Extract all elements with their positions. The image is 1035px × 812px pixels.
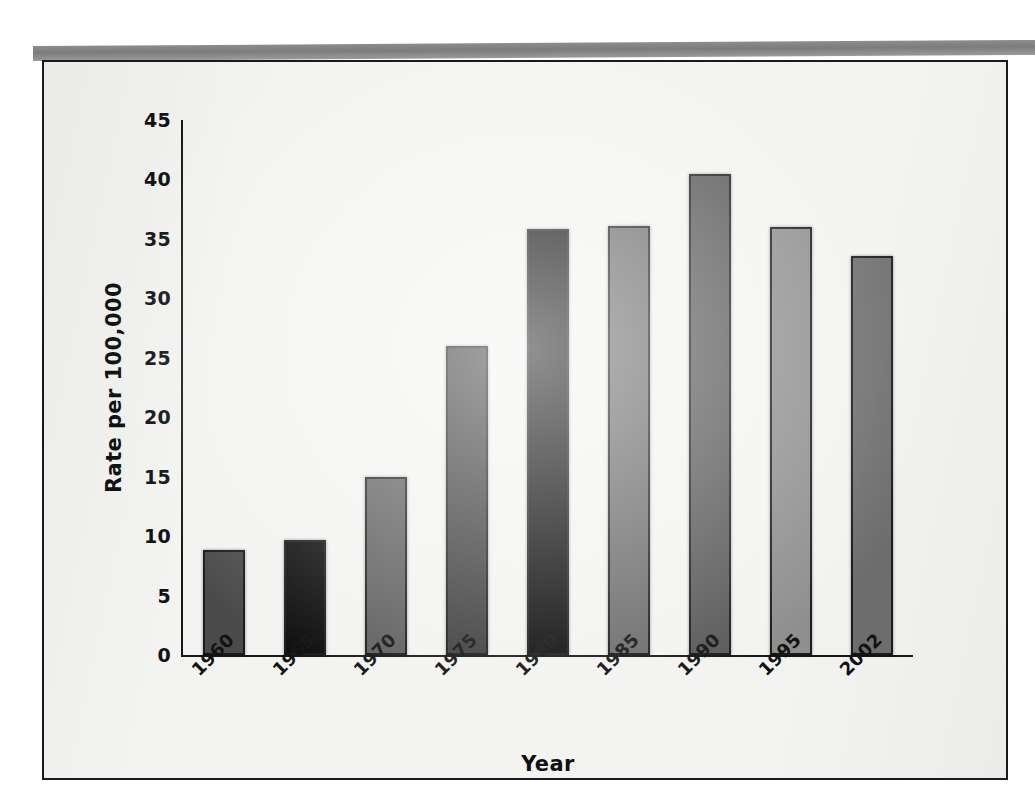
bar[interactable] [527,229,569,655]
bar[interactable] [770,227,812,655]
bar[interactable] [446,346,488,655]
y-tick-label: 5 [157,585,171,607]
scan-top-band [33,40,1035,61]
bar-series: 196019651970197519801985199019952002 [183,120,913,655]
y-tick-label: 20 [144,406,171,428]
bar-slot: 1985 [589,120,670,655]
y-axis-title: Rate per 100,000 [102,120,126,655]
bar-slot: 1970 [345,120,426,655]
y-tick-label: 10 [144,525,171,547]
scanned-page: Rate per 100,000 051015202530354045 1960… [0,0,1035,812]
bar[interactable] [365,477,407,655]
bar[interactable] [608,226,650,655]
bar-slot: 2002 [832,120,913,655]
bar-slot: 1960 [183,120,264,655]
bar-slot: 1965 [264,120,345,655]
bar-slot: 1980 [507,120,588,655]
figure-frame: Rate per 100,000 051015202530354045 1960… [42,60,1008,780]
y-tick-label: 45 [144,109,171,131]
bar-slot: 1990 [670,120,751,655]
bar-slot: 1995 [751,120,832,655]
plot-area: 051015202530354045 196019651970197519801… [183,120,913,655]
y-tick-label: 30 [144,287,171,309]
y-tick-label: 35 [144,228,171,250]
bar-slot: 1975 [426,120,507,655]
y-tick-label: 25 [144,347,171,369]
y-tick-label: 40 [144,168,171,190]
x-axis-title: Year [183,752,913,776]
bar[interactable] [851,256,893,655]
bar[interactable] [689,174,731,656]
bar-chart: Rate per 100,000 051015202530354045 1960… [44,62,1010,778]
y-tick-label: 0 [157,644,171,666]
y-tick-label: 15 [144,466,171,488]
